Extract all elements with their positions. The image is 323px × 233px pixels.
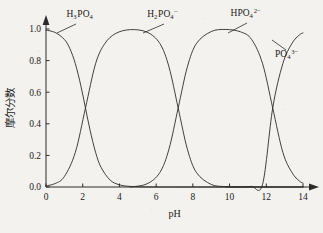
y-tick-label: 0.6	[29, 88, 41, 98]
species-label: PO4 3−	[275, 48, 299, 61]
x-tick-label: 14	[298, 192, 308, 202]
x-tick-label: 0	[44, 192, 49, 202]
species-curve	[226, 33, 303, 191]
curve-series	[46, 29, 303, 190]
species-label: HPO4 2−	[231, 7, 262, 20]
x-axis-arrowhead	[309, 184, 319, 191]
y-tick-label: 1.0	[29, 24, 41, 34]
y-axis-title: 摩尔分数	[4, 87, 16, 128]
annotation-leader-lines	[57, 23, 286, 50]
y-tick-label: 0.4	[29, 119, 41, 129]
x-tick-label: 10	[225, 192, 235, 202]
leader-line	[57, 24, 76, 33]
x-axis-title: pH	[168, 208, 180, 219]
x-tick-label: 4	[117, 192, 122, 202]
leader-line	[143, 24, 164, 33]
x-tick-label: 8	[190, 192, 195, 202]
y-tick-label: 0.2	[29, 151, 41, 161]
y-tick-label: 0.8	[29, 56, 41, 66]
speciation-chart-figure: 024681012140.00.20.40.60.81.0pH摩尔分数H3 PO…	[0, 0, 323, 233]
species-label: H2 PO4 −	[147, 8, 179, 21]
species-curve	[46, 30, 303, 187]
x-tick-label: 12	[262, 192, 272, 202]
x-tick-label: 6	[154, 192, 159, 202]
leader-line	[228, 23, 247, 33]
x-tick-label: 2	[80, 192, 85, 202]
y-axis-arrowhead	[43, 15, 50, 25]
chart-canvas: 024681012140.00.20.40.60.81.0pH摩尔分数H3 PO…	[0, 0, 323, 233]
y-tick-label: 0.0	[29, 182, 41, 192]
species-label: H3 PO4	[66, 9, 93, 20]
species-curve	[46, 30, 303, 187]
